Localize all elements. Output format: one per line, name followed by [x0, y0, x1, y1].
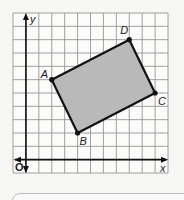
figure: ABCD x y O	[0, 0, 184, 200]
vertex-a-point	[49, 77, 54, 82]
vertex-c-point	[152, 90, 157, 95]
answer-box[interactable]	[12, 193, 184, 200]
vertex-a-label: A	[40, 68, 48, 80]
vertex-c-label: C	[158, 95, 166, 107]
x-axis-label: x	[159, 162, 166, 174]
vertex-d-label: D	[120, 24, 128, 36]
vertex-b-label: B	[80, 135, 87, 147]
origin-label: O	[15, 161, 24, 173]
coordinate-plane: ABCD x y O	[0, 0, 184, 200]
vertex-d-point	[127, 37, 132, 42]
